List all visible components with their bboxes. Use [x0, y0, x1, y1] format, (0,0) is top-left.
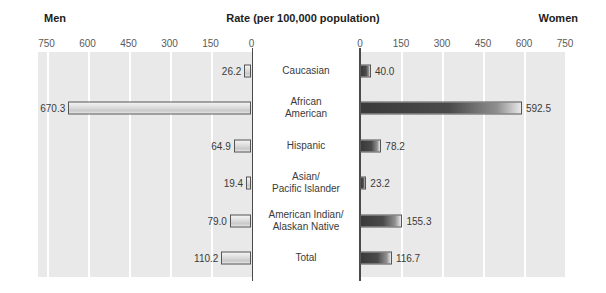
- chart-row: 79.0155.3American Indian/Alaskan Native: [0, 202, 606, 240]
- bar-value-men: 670.3: [40, 103, 65, 114]
- bar-value-women: 592.5: [526, 103, 551, 114]
- bar-men: [221, 252, 251, 265]
- bar-women: [360, 102, 522, 115]
- bar-value-men: 64.9: [211, 140, 230, 151]
- category-label: AfricanAmerican: [285, 96, 327, 120]
- chart-row: 64.978.2Hispanic: [0, 127, 606, 165]
- men-panel-header: Men: [44, 12, 66, 24]
- bar-men: [68, 102, 251, 115]
- right-tick-600: 600: [516, 38, 533, 49]
- bar-value-men: 79.0: [207, 215, 226, 226]
- chart-row: 26.240.0Caucasian: [0, 52, 606, 90]
- diverging-bar-chart: Men Rate (per 100,000 population) Women …: [0, 0, 606, 293]
- bar-value-women: 78.2: [385, 140, 404, 151]
- chart-row: 19.423.2Asian/Pacific Islander: [0, 165, 606, 203]
- bar-women: [360, 139, 381, 152]
- left-tick-750: 750: [38, 38, 55, 49]
- category-label: Hispanic: [287, 140, 325, 152]
- right-tick-150: 150: [393, 38, 410, 49]
- bar-men: [230, 214, 252, 227]
- bar-women: [360, 214, 402, 227]
- category-label-line1: Asian/: [272, 171, 340, 183]
- category-label: Total: [295, 252, 316, 264]
- category-label-line2: American: [285, 108, 327, 120]
- bar-value-women: 40.0: [375, 65, 394, 76]
- bar-value-women: 155.3: [406, 215, 431, 226]
- left-tick-300: 300: [161, 38, 178, 49]
- bar-men: [244, 64, 251, 77]
- women-panel-header: Women: [538, 12, 578, 24]
- category-label-line1: American Indian/: [268, 209, 343, 221]
- category-label-line2: Pacific Islander: [272, 183, 340, 195]
- bar-value-men: 19.4: [224, 178, 243, 189]
- left-tick-600: 600: [79, 38, 96, 49]
- chart-row: 670.3592.5AfricanAmerican: [0, 90, 606, 128]
- bar-value-women: 23.2: [370, 178, 389, 189]
- bar-men: [246, 177, 251, 190]
- bar-women: [360, 64, 371, 77]
- category-label: American Indian/Alaskan Native: [268, 209, 343, 233]
- bar-value-women: 116.7: [396, 253, 420, 264]
- bar-women: [360, 177, 366, 190]
- category-label-line1: African: [285, 96, 327, 108]
- bar-value-men: 110.2: [194, 253, 218, 264]
- category-column-header: Race: [0, 0, 303, 12]
- bar-value-men: 26.2: [222, 65, 241, 76]
- category-label-line1: Hispanic: [287, 140, 325, 152]
- category-label-line2: Alaskan Native: [268, 221, 343, 233]
- right-tick-300: 300: [434, 38, 451, 49]
- bar-men: [234, 139, 252, 152]
- right-tick-450: 450: [475, 38, 492, 49]
- right-tick-750: 750: [557, 38, 574, 49]
- category-label: Asian/Pacific Islander: [272, 171, 340, 195]
- left-tick-150: 150: [202, 38, 219, 49]
- chart-title: Rate (per 100,000 population): [226, 12, 379, 24]
- category-label: Caucasian: [282, 65, 329, 77]
- left-tick-450: 450: [120, 38, 137, 49]
- category-label-line1: Total: [295, 252, 316, 264]
- category-label-line1: Caucasian: [282, 65, 329, 77]
- bar-women: [360, 252, 392, 265]
- chart-row: 110.2116.7Total: [0, 240, 606, 278]
